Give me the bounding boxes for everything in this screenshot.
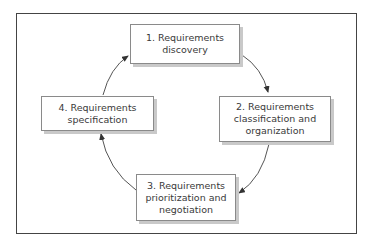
node-requirements-classification: 2. Requirements classification and organ… xyxy=(219,96,331,142)
node-label: 1. Requirements discovery xyxy=(146,32,224,56)
node-label: 4. Requirements specification xyxy=(58,102,136,126)
node-requirements-discovery: 1. Requirements discovery xyxy=(130,24,240,64)
node-requirements-prioritization: 3. Requirements prioritization and negot… xyxy=(136,174,236,221)
node-label: 3. Requirements prioritization and negot… xyxy=(145,180,226,216)
node-label: 2. Requirements classification and organ… xyxy=(234,101,316,137)
node-requirements-specification: 4. Requirements specification xyxy=(41,96,154,131)
